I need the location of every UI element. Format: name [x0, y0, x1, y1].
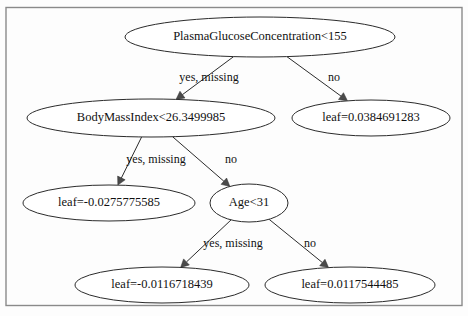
edge-label: yes, missing [203, 236, 262, 250]
node-label: BodyMassIndex<26.3499985 [77, 110, 225, 124]
node-label: PlasmaGlucoseConcentration<155 [173, 29, 347, 43]
node-label: leaf=0.0117544485 [301, 277, 398, 291]
tree-diagram-canvas: PlasmaGlucoseConcentration<155BodyMassIn… [0, 0, 468, 316]
decision-tree-graphic: PlasmaGlucoseConcentration<155BodyMassIn… [0, 0, 468, 316]
node-label: leaf=-0.0275775585 [58, 195, 160, 209]
tree-leaf-node[interactable]: leaf=0.0117544485 [265, 267, 435, 303]
edge-label: yes, missing [179, 70, 238, 84]
edge-label: yes, missing [126, 152, 185, 166]
tree-split-node[interactable]: PlasmaGlucoseConcentration<155 [125, 17, 395, 57]
tree-leaf-node[interactable]: leaf=-0.0116718439 [75, 267, 249, 303]
node-label: Age<31 [229, 195, 269, 209]
node-label: leaf=0.0384691283 [322, 110, 420, 124]
tree-split-node[interactable]: BodyMassIndex<26.3499985 [27, 99, 275, 137]
edge-label: no [225, 152, 237, 166]
tree-leaf-node[interactable]: leaf=0.0384691283 [292, 100, 450, 136]
edge-label: no [328, 70, 340, 84]
node-label: leaf=-0.0116718439 [111, 277, 212, 291]
edge-labels-group: yes, missingnoyes, missingnoyes, missing… [126, 70, 340, 250]
tree-edge [269, 219, 328, 267]
tree-leaf-node[interactable]: leaf=-0.0275775585 [23, 185, 195, 221]
edge-label: no [304, 236, 316, 250]
tree-split-node[interactable]: Age<31 [210, 184, 288, 222]
